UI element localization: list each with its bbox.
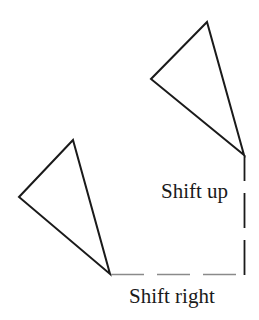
translation-diagram: Shift up Shift right [0,0,259,320]
translated-triangle [151,22,244,155]
original-triangle [19,140,110,274]
diagram-graphic [0,0,259,320]
shift-up-label: Shift up [161,181,228,202]
shift-right-label: Shift right [129,286,215,307]
